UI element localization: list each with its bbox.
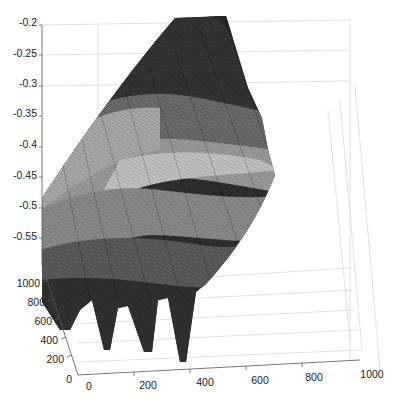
x-axis-labels: 0 200 400 600 800 1000: [86, 368, 384, 392]
y-tick-label: 0: [66, 373, 72, 385]
x-tick-label: 600: [251, 374, 269, 386]
z-tick-label: -0.2: [19, 16, 37, 28]
z-tick-label: -0.35: [13, 107, 37, 119]
x-tick-label: 800: [305, 371, 323, 383]
surface: [0, 0, 393, 401]
y-tick-label: 600: [34, 315, 52, 327]
z-axis-labels: -0.2 -0.25 -0.3 -0.35 -0.4 -0.45 -0.5 -0…: [13, 16, 37, 242]
surface-plot: -0.2 -0.25 -0.3 -0.35 -0.4 -0.45 -0.5 -0…: [0, 0, 393, 401]
z-tick-label: -0.45: [13, 169, 37, 181]
y-tick-label: 1000: [17, 277, 41, 289]
z-tick-label: -0.25: [13, 47, 37, 59]
z-tick-label: -0.5: [19, 199, 37, 211]
x-tick-label: 400: [196, 376, 214, 388]
z-tick-label: -0.55: [13, 230, 37, 242]
z-tick-label: -0.4: [19, 138, 37, 150]
y-tick-label: 800: [27, 296, 45, 308]
x-tick-label: 1000: [360, 368, 384, 380]
z-tick-label: -0.3: [19, 77, 37, 89]
x-tick-label: 200: [139, 379, 157, 391]
x-tick-label: 0: [86, 380, 92, 392]
y-tick-label: 400: [40, 334, 58, 346]
y-tick-label: 200: [46, 353, 64, 365]
